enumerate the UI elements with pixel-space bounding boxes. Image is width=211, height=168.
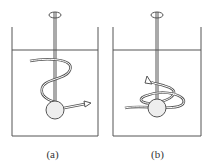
flow-arrowhead: [145, 76, 152, 84]
caption-a: (a): [0, 148, 105, 160]
caption-b: (b): [105, 148, 210, 160]
flow-arrowhead: [84, 101, 91, 107]
rotation-arrow-icon: [151, 12, 163, 18]
tank-wall: [12, 27, 98, 136]
sphere-impeller: [148, 99, 166, 117]
panel-a: (a): [0, 0, 105, 168]
panel-b: (b): [105, 0, 210, 168]
tank-wall: [113, 27, 201, 136]
sphere-impeller: [46, 101, 64, 119]
tank-diagram-a: [0, 0, 105, 168]
rotation-arrow-icon: [49, 12, 61, 18]
tank-diagram-b: [105, 0, 211, 168]
